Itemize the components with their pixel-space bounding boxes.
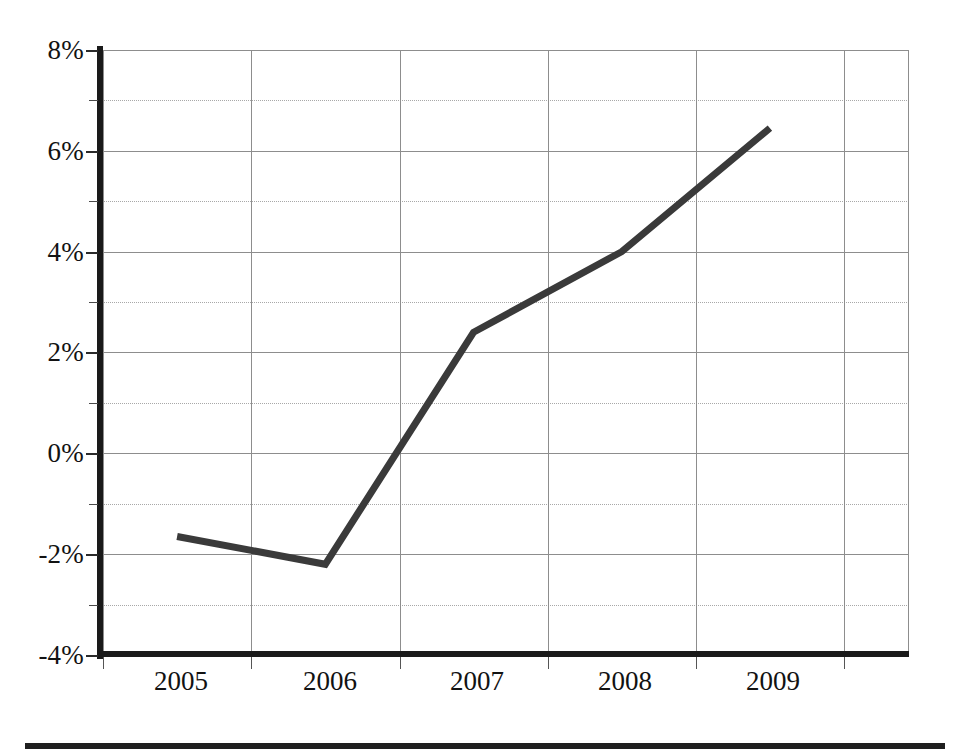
y-tick-3 bbox=[89, 302, 98, 303]
x-axis-spine bbox=[97, 651, 909, 657]
plot-area bbox=[103, 50, 909, 655]
x-tick-0 bbox=[103, 657, 104, 669]
y-tick-5 bbox=[89, 201, 98, 202]
bottom-divider-rule bbox=[25, 743, 945, 749]
gridline-y-neg1 bbox=[103, 504, 909, 505]
y-tick-7 bbox=[89, 100, 98, 101]
x-axis-label-2009: 2009 bbox=[746, 668, 800, 695]
line-chart-figure: 8% 6% 4% 2% 0% -2% -4% 2005 2006 2007 20… bbox=[0, 0, 953, 753]
y-axis-label-8: 8% bbox=[48, 37, 84, 64]
x-tick-3 bbox=[548, 657, 549, 669]
x-axis-label-2007: 2007 bbox=[450, 668, 504, 695]
y-tick-neg1 bbox=[89, 504, 98, 505]
x-tick-1 bbox=[251, 657, 252, 669]
gridline-y-1 bbox=[103, 403, 909, 404]
gridline-y-7 bbox=[103, 100, 909, 101]
gridline-y-neg2 bbox=[103, 554, 909, 555]
gridline-y-0 bbox=[103, 453, 909, 454]
y-axis-label-neg4: -4% bbox=[38, 642, 84, 669]
x-axis-label-2008: 2008 bbox=[598, 668, 652, 695]
y-tick-neg3 bbox=[89, 605, 98, 606]
y-tick-6 bbox=[86, 151, 98, 153]
gridline-x-4 bbox=[696, 50, 697, 655]
gridline-y-neg3 bbox=[103, 605, 909, 606]
gridline-x-0 bbox=[103, 50, 104, 655]
x-tick-2 bbox=[400, 657, 401, 669]
gridline-y-5 bbox=[103, 201, 909, 202]
y-tick-2 bbox=[86, 352, 98, 354]
y-tick-4 bbox=[86, 252, 98, 254]
gridline-y-4 bbox=[103, 252, 909, 253]
gridline-x-5 bbox=[844, 50, 845, 655]
gridline-y-8 bbox=[103, 50, 909, 51]
gridline-x-2 bbox=[400, 50, 401, 655]
y-tick-neg2 bbox=[86, 554, 98, 556]
gridline-x-3 bbox=[548, 50, 549, 655]
gridline-x-1 bbox=[251, 50, 252, 655]
y-tick-1 bbox=[89, 403, 98, 404]
y-axis-label-2: 2% bbox=[48, 339, 84, 366]
x-axis-label-2006: 2006 bbox=[303, 668, 357, 695]
gridline-y-6 bbox=[103, 151, 909, 152]
y-tick-0 bbox=[86, 453, 98, 455]
y-axis-label-0: 0% bbox=[48, 440, 84, 467]
y-axis-label-6: 6% bbox=[48, 138, 84, 165]
gridline-y-2 bbox=[103, 352, 909, 353]
y-axis-label-neg2: -2% bbox=[38, 541, 84, 568]
gridline-x-right-border bbox=[908, 50, 909, 655]
x-tick-5 bbox=[844, 657, 845, 669]
y-tick-neg4 bbox=[86, 655, 98, 657]
x-axis-label-2005: 2005 bbox=[154, 668, 208, 695]
y-axis-label-4: 4% bbox=[48, 239, 84, 266]
x-tick-4 bbox=[696, 657, 697, 669]
y-tick-8 bbox=[86, 50, 98, 52]
gridline-y-3 bbox=[103, 302, 909, 303]
